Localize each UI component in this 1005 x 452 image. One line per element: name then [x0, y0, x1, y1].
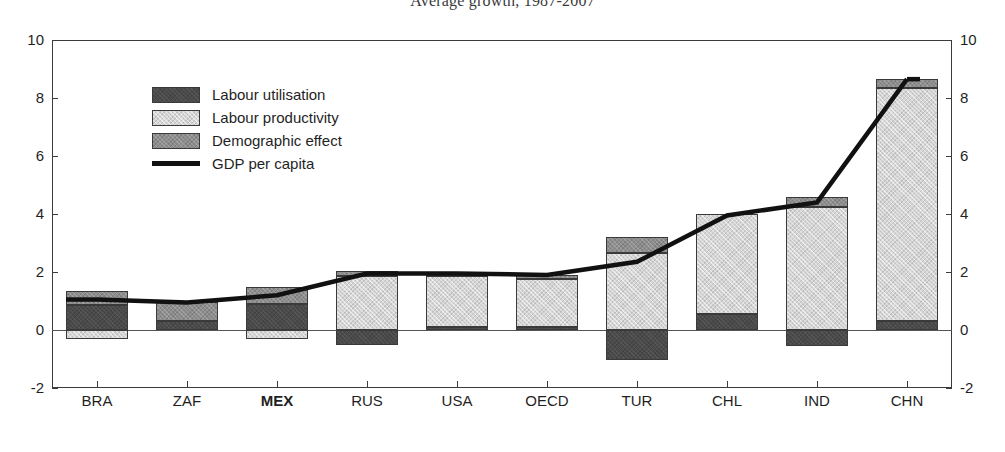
x-axis-label-chn: CHN	[867, 392, 947, 409]
x-axis-label-zaf: ZAF	[147, 392, 227, 409]
chart-root: Average growth, 1987-2007 -2-20022446688…	[0, 0, 1005, 452]
x-axis-label-bra: BRA	[57, 392, 137, 409]
y-tick-label-right-8: 8	[960, 90, 1000, 105]
y-tick-label-right-2: 2	[960, 264, 1000, 279]
legend-line-swatch	[152, 161, 200, 166]
y-tick-right--2	[946, 388, 952, 389]
x-axis-label-ind: IND	[777, 392, 857, 409]
y-tick-label-left-6: 6	[4, 148, 44, 163]
legend-label: GDP per capita	[212, 155, 314, 172]
y-tick-label-left-2: 2	[4, 264, 44, 279]
y-tick-left--2	[52, 388, 58, 389]
x-axis-label-usa: USA	[417, 392, 497, 409]
legend-color-swatch	[152, 87, 200, 103]
y-tick-label-left-8: 8	[4, 90, 44, 105]
y-tick-label-right-10: 10	[960, 32, 1000, 47]
legend-label: Demographic effect	[212, 132, 342, 149]
y-tick-label-left--2: -2	[4, 380, 44, 395]
legend-item-labour-utilisation[interactable]: Labour utilisation	[152, 83, 342, 106]
legend-label: Labour productivity	[212, 109, 339, 126]
y-tick-label-left-10: 10	[4, 32, 44, 47]
legend-item-demographic-effect[interactable]: Demographic effect	[152, 129, 342, 152]
chart-title: Average growth, 1987-2007	[0, 0, 1005, 10]
plot-area: -2-200224466881010 BRAZAFMEXRUSUSAOECDTU…	[52, 40, 952, 388]
legend-color-swatch	[152, 133, 200, 149]
legend-color-swatch	[152, 110, 200, 126]
y-tick-label-right--2: -2	[960, 380, 1000, 395]
y-tick-label-right-4: 4	[960, 206, 1000, 221]
x-axis-label-mex: MEX	[237, 392, 317, 409]
legend-item-labour-productivity[interactable]: Labour productivity	[152, 106, 342, 129]
chart-legend: Labour utilisationLabour productivityDem…	[152, 83, 342, 175]
y-tick-label-left-0: 0	[4, 322, 44, 337]
legend-label: Labour utilisation	[212, 86, 325, 103]
y-tick-label-left-4: 4	[4, 206, 44, 221]
legend-item-gdp-per-capita[interactable]: GDP per capita	[152, 152, 342, 175]
y-tick-label-right-6: 6	[960, 148, 1000, 163]
x-axis-label-oecd: OECD	[507, 392, 587, 409]
x-axis-label-rus: RUS	[327, 392, 407, 409]
x-axis-label-tur: TUR	[597, 392, 677, 409]
x-axis-label-chl: CHL	[687, 392, 767, 409]
y-tick-label-right-0: 0	[960, 322, 1000, 337]
